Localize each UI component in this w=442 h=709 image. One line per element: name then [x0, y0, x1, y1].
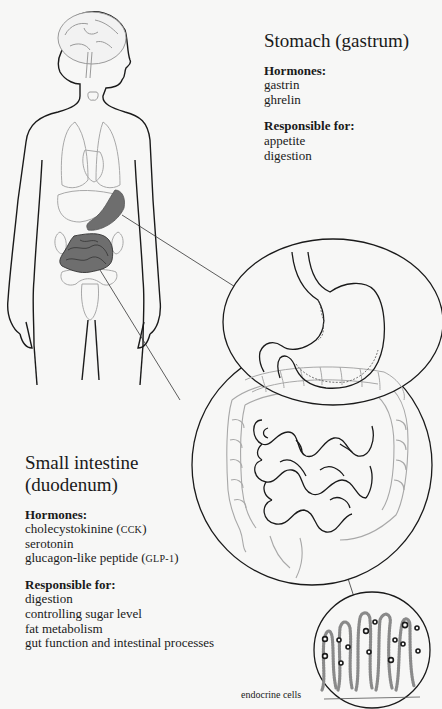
stomach-hormone: ghrelin: [264, 93, 409, 108]
stomach-hormone: gastrin: [264, 78, 409, 93]
small-intestine-highlight: [60, 234, 113, 273]
small-intestine-responsible-heading: Responsible for:: [25, 578, 214, 593]
endocrine-cells-label: endocrine cells: [241, 689, 301, 700]
small-intestine-hormone: serotonin: [25, 537, 214, 552]
small-intestine-title-line2: (duodenum): [25, 474, 214, 496]
small-intestine-info: Small intestine (duodenum) Hormones: cho…: [25, 452, 214, 651]
human-body-outline: [8, 12, 161, 385]
stomach-hormones-heading: Hormones:: [264, 64, 409, 79]
stomach-function: digestion: [264, 149, 409, 164]
hormone-abbr: CCK: [121, 524, 142, 535]
stomach-function: appetite: [264, 134, 409, 149]
small-intestine-title-line1: Small intestine: [25, 452, 214, 474]
stomach-zoom-circle: [223, 239, 442, 405]
stomach-info: Stomach (gastrum) Hormones: gastrin ghre…: [264, 30, 409, 163]
stomach-title: Stomach (gastrum): [264, 30, 409, 52]
stomach-highlight: [87, 190, 125, 230]
hormone-abbr: GLP-1: [146, 553, 175, 564]
stomach-responsible-heading: Responsible for:: [264, 119, 409, 134]
small-intestine-function: digestion: [25, 592, 214, 607]
hormone-name: glucagon-like peptide (: [25, 550, 146, 565]
small-intestine-hormone: cholecystokinine (CCK): [25, 522, 214, 537]
stomach-leader-line: [122, 215, 240, 290]
small-intestine-hormones-heading: Hormones:: [25, 508, 214, 523]
brain-icon: [58, 12, 126, 78]
villi-zoom-circle: [314, 592, 430, 708]
hormone-close: ): [142, 521, 146, 536]
thyroid-icon: [88, 92, 98, 100]
hormone-name: serotonin: [25, 536, 73, 551]
hormone-name: cholecystokinine (: [25, 521, 121, 536]
small-intestine-function: gut function and intestinal processes: [25, 636, 214, 651]
small-intestine-function: controlling sugar level: [25, 607, 214, 622]
small-intestine-hormone: glucagon-like peptide (GLP-1): [25, 551, 214, 566]
small-intestine-function: fat metabolism: [25, 622, 214, 637]
hormone-close: ): [174, 550, 178, 565]
